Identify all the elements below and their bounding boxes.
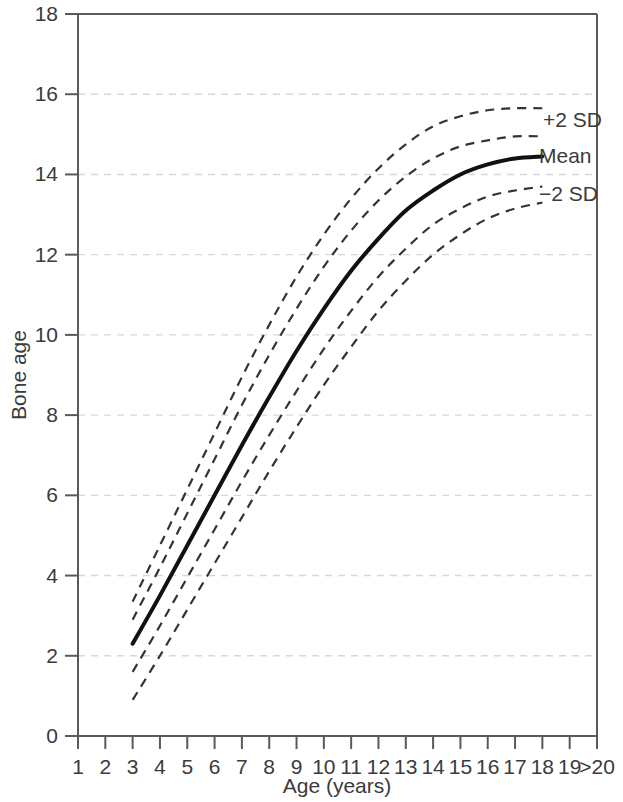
curve-2-sd-outer: [133, 108, 543, 602]
gridlines-group: [78, 14, 597, 656]
series-label-minus2sd: −2 SD: [539, 182, 598, 205]
series-label-plus2sd: +2 SD: [543, 108, 602, 131]
curves-group: [133, 108, 543, 700]
y-tick-label-10: 10: [35, 323, 58, 346]
x-tick-label-6: 6: [209, 755, 221, 778]
x-tick-label-3: 3: [127, 755, 139, 778]
x-tick-label-8: 8: [263, 755, 275, 778]
x-tick-label-2: 2: [99, 755, 111, 778]
x-tick-label-18: 18: [531, 755, 554, 778]
y-axis-title: Bone age: [7, 330, 30, 420]
chart-canvas: 024681012141618 123456789101112131415161…: [0, 0, 623, 802]
y-tick-group: 024681012141618: [35, 2, 78, 747]
y-tick-label-18: 18: [35, 2, 58, 25]
series-label-mean: Mean: [539, 144, 592, 167]
x-tick-label-5: 5: [181, 755, 193, 778]
x-tick-label-1: 1: [72, 755, 84, 778]
curve-2-sd: [133, 136, 543, 620]
x-tick-label-7: 7: [236, 755, 248, 778]
x-tick-group: 12345678910111213141516171819>20: [72, 736, 615, 778]
x-tick-label-14: 14: [421, 755, 445, 778]
y-tick-label-8: 8: [46, 403, 58, 426]
y-tick-label-6: 6: [46, 483, 58, 506]
y-tick-label-2: 2: [46, 644, 58, 667]
curve-2-sd-outer: [133, 203, 543, 700]
axes-group: [78, 14, 597, 736]
x-tick-label-16: 16: [476, 755, 499, 778]
y-tick-label-0: 0: [46, 724, 58, 747]
y-tick-label-4: 4: [46, 564, 58, 587]
x-tick-label-15: 15: [449, 755, 472, 778]
x-tick-label-19: 19: [558, 755, 581, 778]
x-axis-title: Age (years): [283, 774, 392, 797]
y-tick-label-12: 12: [35, 243, 58, 266]
x-tick-label-17: 17: [503, 755, 526, 778]
y-tick-label-16: 16: [35, 82, 58, 105]
y-tick-label-14: 14: [35, 162, 59, 185]
bone-age-chart: 024681012141618 123456789101112131415161…: [0, 0, 623, 802]
x-tick-label-4: 4: [154, 755, 166, 778]
x-tick-label-13: 13: [394, 755, 417, 778]
curve-mean: [133, 156, 543, 643]
x-tick-label->20: >20: [579, 755, 615, 778]
